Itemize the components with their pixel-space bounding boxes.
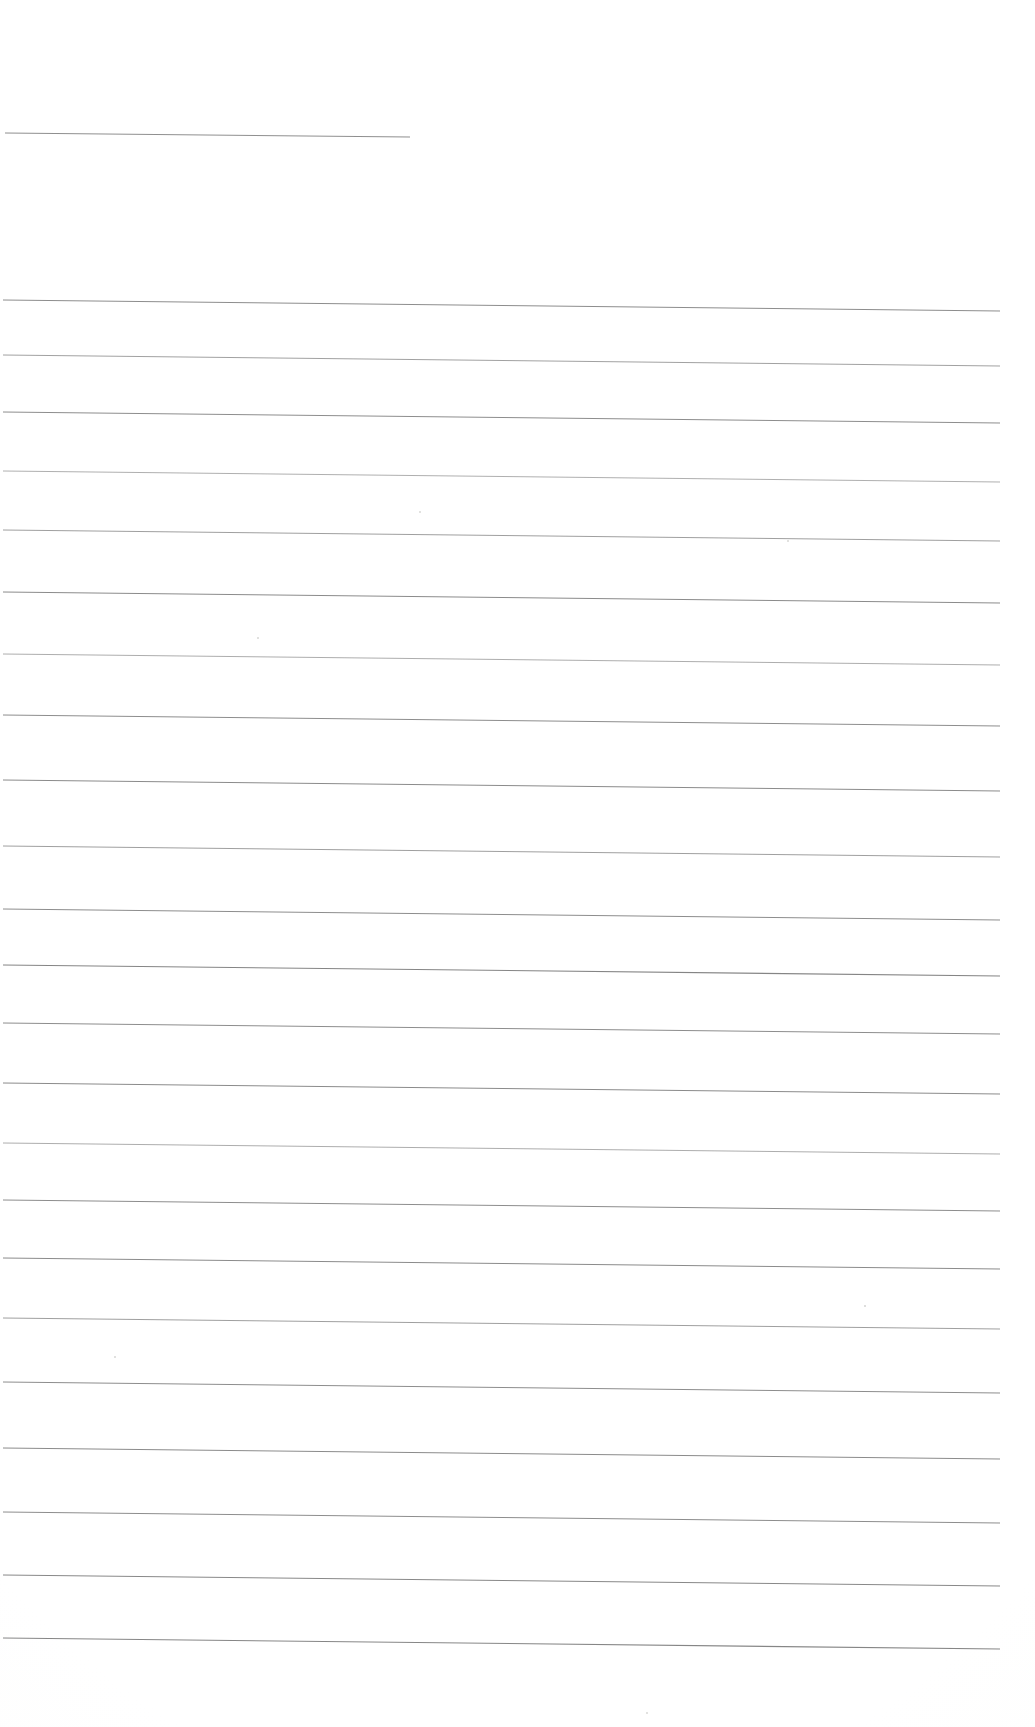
ruled-line <box>3 1318 1000 1329</box>
ruled-line <box>3 412 1000 423</box>
ruled-line <box>3 1143 1000 1154</box>
ruled-lines-group <box>3 133 1000 1649</box>
ruled-line <box>3 471 1000 482</box>
ruled-lines-svg <box>0 0 1035 1727</box>
ruled-line <box>3 1512 1000 1523</box>
ruled-line <box>3 654 1000 665</box>
ruled-lines-layer <box>0 0 1035 1727</box>
ruled-line <box>5 133 410 137</box>
ruled-line <box>3 355 1000 366</box>
ruled-line <box>3 909 1000 920</box>
ruled-line <box>3 300 1000 311</box>
ruled-line <box>3 846 1000 857</box>
ruled-line <box>3 592 1000 603</box>
ruled-line <box>3 1448 1000 1459</box>
ruled-line <box>3 1575 1000 1586</box>
scanned-page <box>0 0 1035 1727</box>
ruled-line <box>3 780 1000 791</box>
ruled-line <box>3 1083 1000 1094</box>
ruled-line <box>3 1258 1000 1269</box>
ruled-line <box>3 1200 1000 1211</box>
ruled-line <box>3 1382 1000 1393</box>
ruled-line <box>3 1638 1000 1649</box>
ruled-line <box>3 965 1000 976</box>
ruled-line <box>3 1023 1000 1034</box>
ruled-line <box>3 715 1000 726</box>
ruled-line <box>3 530 1000 541</box>
